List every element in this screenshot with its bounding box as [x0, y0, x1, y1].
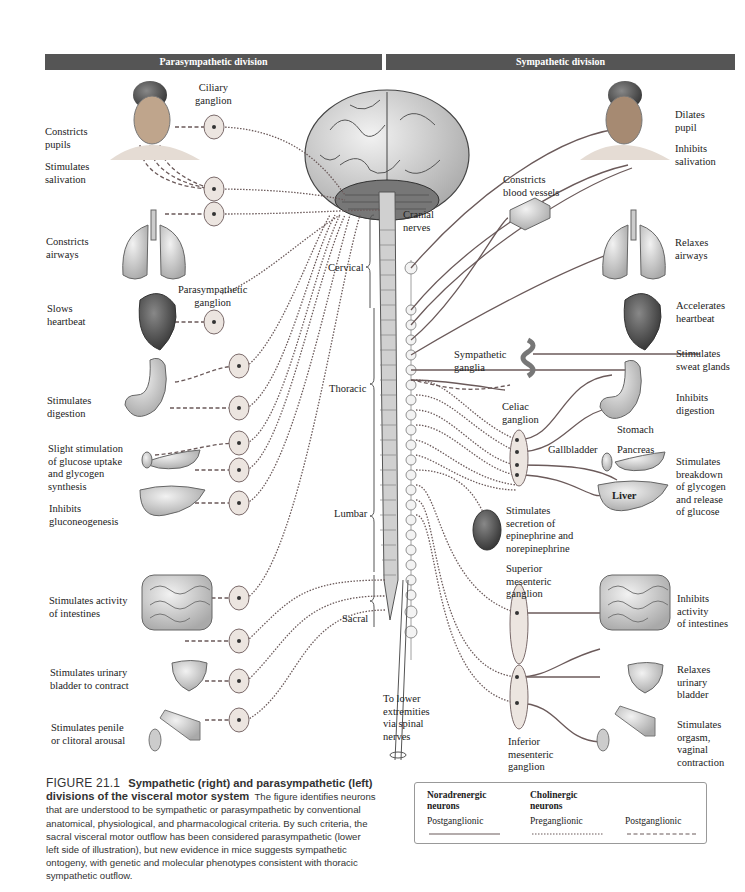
legend-noradrenergic-title: Noradrenergic neurons	[427, 790, 486, 812]
liver-label: Liver	[612, 490, 637, 503]
effect-stimulates-digestion: Stimulates digestion	[47, 395, 91, 420]
celiac-ganglion-label: Celiac ganglion	[502, 401, 539, 426]
stomach-label: Stomach	[617, 424, 654, 437]
effect-stimulates-salivation: Stimulates salivation	[45, 161, 89, 186]
effect-constricts-airways: Constricts airways	[46, 236, 89, 261]
head-left-icon	[110, 81, 200, 160]
effect-bladder-contract: Stimulates urinary bladder to contract	[50, 667, 129, 692]
heart-left-icon	[139, 294, 176, 350]
autonomic-diagram	[0, 0, 745, 780]
effect-inhibits-digestion: Inhibits digestion	[676, 392, 715, 417]
effect-dilates-pupil: Dilates pupil	[675, 109, 705, 134]
heart-right-icon	[624, 294, 661, 350]
effect-inhibits-intestines: Inhibits activity of intestines	[677, 593, 728, 631]
bladder-left-icon	[172, 661, 207, 692]
head-right-icon	[580, 81, 670, 160]
lower-extremities-label: To lower extremities via spinal nerves	[383, 693, 430, 743]
stomach-left-icon	[125, 358, 166, 416]
region-lumbar: Lumbar	[334, 508, 367, 521]
effect-stimulates-sweat-glands: Stimulates sweat glands	[676, 348, 730, 373]
effect-genital-arousal: Stimulates penile or clitoral arousal	[51, 722, 125, 747]
bladder-right-icon	[628, 663, 663, 694]
superior-mesenteric-label: Superior mesenteric ganglion	[506, 563, 551, 601]
legend-cholinergic-postganglionic: Postganglionic	[625, 816, 681, 826]
adrenal-kidney-icon	[473, 510, 501, 550]
effect-epinephrine-secretion: Stimulates secretion of epinephrine and …	[506, 505, 573, 555]
effect-inhibits-salivation: Inhibits salivation	[675, 143, 716, 168]
effect-glucose-uptake: Slight stimulation of glucose uptake and…	[48, 443, 123, 493]
effect-constricts-blood-vessels: Constricts blood vessels	[503, 174, 559, 199]
legend-cholinergic-preganglionic: Preganglionic	[530, 816, 583, 826]
genitalia-left-icon	[149, 710, 200, 751]
lungs-right-icon	[603, 210, 666, 279]
gallbladder-icon	[602, 453, 612, 471]
ciliary-ganglion-label: Ciliary ganglion	[195, 82, 232, 107]
sympathetic-ganglia-label: Sympathetic ganglia	[454, 349, 507, 374]
effect-relaxes-bladder: Relaxes urinary bladder	[677, 664, 710, 702]
effect-slows-heartbeat: Slows heartbeat	[47, 303, 85, 328]
effect-accelerates-heartbeat: Accelerates heartbeat	[676, 300, 725, 325]
genitalia-right-icon	[597, 706, 655, 751]
region-cervical: Cervical	[328, 262, 364, 275]
effect-inhibits-gluconeogenesis: Inhibits gluconeogenesis	[49, 503, 118, 528]
parasympathetic-ganglion-label: Parasympathetic ganglion	[178, 284, 247, 309]
figure-number: FIGURE 21.1	[46, 776, 120, 790]
effect-constricts-pupils: Constricts pupils	[45, 126, 88, 151]
spinal-cord-icon	[379, 192, 398, 620]
figure-caption: FIGURE 21.1 Sympathetic (right) and para…	[46, 777, 376, 883]
inferior-mesenteric-label: Inferior mesenteric ganglion	[508, 736, 553, 774]
legend-cholinergic-title: Cholinergic neurons	[530, 790, 578, 812]
intestines-right-icon	[600, 575, 670, 630]
pancreas-label: Pancreas	[617, 444, 654, 457]
blood-vessel-icon	[510, 198, 550, 230]
effect-orgasm-contraction: Stimulates orgasm, vaginal contraction	[677, 719, 724, 769]
effect-glycogen-breakdown: Stimulates breakdown of glycogen and rel…	[676, 456, 726, 519]
liver-left-icon	[140, 486, 205, 516]
gallbladder-label: Gallbladder	[548, 444, 598, 457]
legend-noradrenergic-postganglionic: Postganglionic	[427, 816, 483, 826]
lungs-left-icon	[123, 210, 186, 279]
cranial-nerves-label: Cranial nerves	[403, 209, 434, 234]
legend-line-samples	[415, 829, 706, 839]
stomach-right-icon	[600, 360, 641, 418]
region-sacral: Sacral	[342, 613, 368, 626]
figure-body: The figure identifies neurons that are u…	[46, 791, 376, 881]
effect-stimulates-intestines: Stimulates activity of intestines	[49, 595, 127, 620]
effect-relaxes-airways: Relaxes airways	[675, 237, 708, 262]
intestines-left-icon	[142, 575, 212, 630]
region-thoracic: Thoracic	[329, 383, 366, 396]
legend-box: Noradrenergic neurons Cholinergic neuron…	[414, 782, 707, 844]
